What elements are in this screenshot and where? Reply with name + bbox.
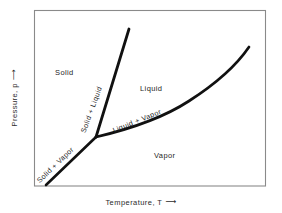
phase-diagram-figure: Solid Liquid Vapor Solid + Liquid Solid … bbox=[0, 0, 282, 213]
x-axis-label-text: Temperature, T bbox=[105, 198, 162, 207]
x-axis-label: Temperature, T⟶ bbox=[0, 197, 282, 207]
right-arrow-icon: ⟶ bbox=[165, 197, 176, 206]
region-label-solid: Solid bbox=[55, 68, 74, 77]
y-axis-label: Pressure, p⟶ bbox=[9, 38, 19, 158]
y-axis-label-text: Pressure, p bbox=[10, 83, 19, 126]
up-arrow-icon: ⟶ bbox=[9, 69, 18, 80]
region-label-liquid: Liquid bbox=[140, 84, 162, 93]
region-label-vapor: Vapor bbox=[154, 151, 175, 160]
